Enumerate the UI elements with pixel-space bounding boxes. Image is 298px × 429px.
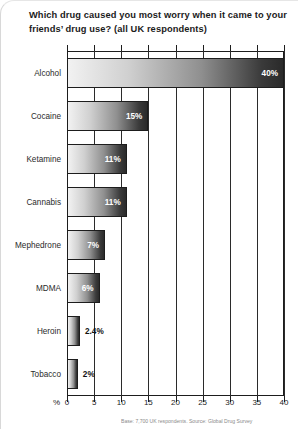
bar-row: 15% xyxy=(67,101,284,131)
bar-row: 11% xyxy=(67,144,284,174)
x-axis-tick-labels: 0510152025303540 xyxy=(67,398,284,410)
axis-tick xyxy=(94,45,95,51)
x-tick-label: 25 xyxy=(198,398,207,407)
bar-value-label: 2% xyxy=(83,370,95,379)
axis-tick xyxy=(257,45,258,51)
x-tick-label: 30 xyxy=(225,398,234,407)
bar-value-label: 40% xyxy=(262,68,278,77)
bar-value-label: 6% xyxy=(82,284,94,293)
chart-page: Which drug caused you most worry when it… xyxy=(0,0,298,429)
bar-value-label: 11% xyxy=(105,154,121,163)
bar[interactable] xyxy=(67,359,78,389)
axis-tick xyxy=(148,45,149,51)
bar[interactable] xyxy=(67,316,80,346)
x-tick-label: 0 xyxy=(65,398,69,407)
axis-tick xyxy=(176,45,177,51)
category-label: Heroin xyxy=(37,327,61,336)
category-label-column: AlcoholCocaineKetamineCannabisMephedrone… xyxy=(1,51,61,396)
bar-row: 11% xyxy=(67,187,284,217)
bar-row: 2% xyxy=(67,359,284,389)
bar-value-label: 7% xyxy=(87,241,99,250)
category-label: Tobacco xyxy=(31,370,62,379)
bar-row: 7% xyxy=(67,230,284,260)
axis-tick xyxy=(203,45,204,51)
x-tick-label: 10 xyxy=(117,398,126,407)
bar[interactable]: 15% xyxy=(67,101,148,131)
x-tick-label: 20 xyxy=(171,398,180,407)
bar[interactable]: 40% xyxy=(67,58,284,88)
bar-row: 6% xyxy=(67,273,284,303)
page-title: Which drug caused you most worry when it… xyxy=(29,9,287,36)
bar[interactable]: 7% xyxy=(67,230,105,260)
category-label: MDMA xyxy=(36,284,61,293)
x-tick-label: 35 xyxy=(252,398,261,407)
bar-value-label: 15% xyxy=(126,111,142,120)
bar-row: 40% xyxy=(67,58,284,88)
bar-value-label: 2.4% xyxy=(85,327,104,336)
gridline xyxy=(284,51,285,396)
category-label: Cocaine xyxy=(31,111,61,120)
bar[interactable]: 11% xyxy=(67,187,127,217)
axis-tick xyxy=(121,45,122,51)
percent-axis-symbol: % xyxy=(53,398,60,407)
category-label: Cannabis xyxy=(26,197,61,206)
category-label: Alcohol xyxy=(34,68,61,77)
bar[interactable]: 11% xyxy=(67,144,127,174)
axis-tick xyxy=(230,45,231,51)
bar[interactable]: 6% xyxy=(67,273,100,303)
x-tick-label: 5 xyxy=(92,398,96,407)
chart-footnote: Base: 7,700 UK respondents. Source: Glob… xyxy=(121,418,296,425)
axis-tick xyxy=(67,45,68,51)
x-tick-label: 15 xyxy=(144,398,153,407)
plot-area: 40%15%11%11%7%6%2.4%2% xyxy=(67,51,284,396)
bar-row: 2.4% xyxy=(67,316,284,346)
axis-tick xyxy=(284,45,285,51)
bar-value-label: 11% xyxy=(105,197,121,206)
x-tick-label: 40 xyxy=(280,398,289,407)
category-label: Mephedrone xyxy=(15,241,61,250)
category-label: Ketamine xyxy=(26,154,61,163)
